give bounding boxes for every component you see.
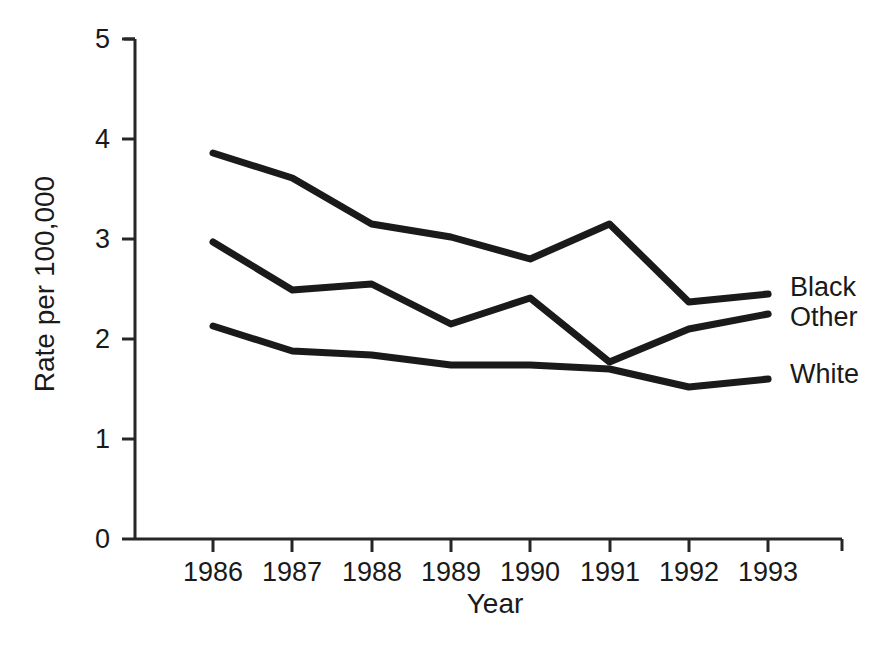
- x-axis-title: Year: [405, 590, 585, 618]
- x-tick-label-1991: 1991: [565, 559, 655, 586]
- x-ticks: [213, 539, 768, 552]
- x-tick-label-1993: 1993: [723, 559, 813, 586]
- y-axis-title: Rate per 100,000: [29, 176, 60, 392]
- x-tick-label-1988: 1988: [327, 559, 417, 586]
- series-label-other: Other: [790, 304, 858, 331]
- y-tick-label-1: 1: [70, 426, 110, 453]
- series-label-black: Black: [790, 274, 856, 301]
- y-tick-label-0: 0: [70, 526, 110, 553]
- x-tick-label-1987: 1987: [247, 559, 337, 586]
- x-tick-label-1986: 1986: [168, 559, 258, 586]
- series-label-white: White: [790, 361, 859, 388]
- line-chart-figure: 5 4 3 2 1 0 1986 1987 1988 1989 1990 199…: [0, 0, 887, 654]
- plot-area: [0, 0, 887, 654]
- y-tick-label-4: 4: [70, 126, 110, 153]
- series-line-white: [213, 326, 768, 387]
- x-tick-label-1990: 1990: [485, 559, 575, 586]
- series-line-black: [213, 153, 768, 302]
- y-axis-title-wrapper: Rate per 100,000: [31, 154, 59, 414]
- x-tick-label-1992: 1992: [644, 559, 734, 586]
- y-tick-label-5: 5: [70, 26, 110, 53]
- data-series-group: [213, 153, 768, 387]
- y-tick-label-2: 2: [70, 326, 110, 353]
- y-tick-label-3: 3: [70, 226, 110, 253]
- y-ticks: [122, 39, 135, 539]
- x-tick-label-1989: 1989: [406, 559, 496, 586]
